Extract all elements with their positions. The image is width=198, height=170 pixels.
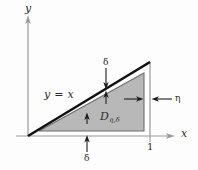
figure-canvas [0,0,198,170]
shaded-region-polygon [39,73,144,131]
figure-caption [0,161,198,170]
figure-container: y x 1 y = x δ δ η Dη,δ [0,0,198,170]
y-axis-label: y [25,3,31,14]
x-axis-label: x [181,128,187,139]
x-tick-label-1: 1 [147,142,153,152]
eta-label: η [175,94,180,103]
region-label-symbol: D [100,110,109,123]
region-label: Dη,δ [100,111,119,122]
delta-top-label: δ [103,58,108,67]
line-equation-label: y = x [44,89,74,100]
region-label-subscript: η,δ [109,116,119,124]
